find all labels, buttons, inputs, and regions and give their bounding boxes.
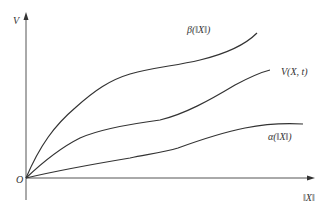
lyapunov-curve: [26, 70, 270, 178]
y-axis-label: V: [13, 16, 19, 26]
beta-curve-label: β(‖X‖): [187, 25, 210, 35]
x-axis-label: ‖X‖: [303, 193, 315, 203]
diagram-canvas: V O ‖X‖ β(‖X‖) V(X, t) α(‖X‖): [0, 0, 329, 217]
origin-label: O: [16, 175, 23, 185]
x-axis-arrow-icon: [307, 176, 315, 181]
alpha-curve-label: α(‖X‖): [268, 132, 292, 142]
y-axis-arrow-icon: [24, 12, 29, 20]
lyapunov-curve-label: V(X, t): [281, 67, 308, 77]
diagram-svg: [0, 0, 329, 217]
alpha-curve: [26, 124, 303, 178]
